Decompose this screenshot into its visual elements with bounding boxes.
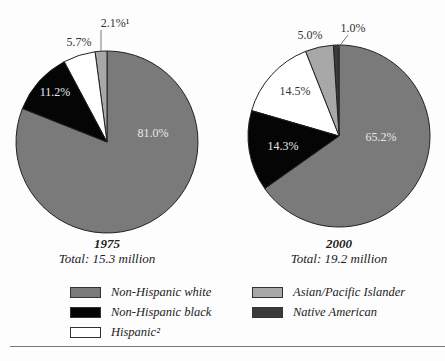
slice-label: 1.0% <box>341 21 366 35</box>
caption-2000: 2000 Total: 19.2 million <box>239 236 439 267</box>
caption-1975: 1975 Total: 15.3 million <box>7 236 207 267</box>
legend-label: Hispanic² <box>111 325 160 340</box>
slice-label: 81.0% <box>138 126 169 140</box>
legend-label: Asian/Pacific Islander <box>293 285 405 300</box>
slice-label: 65.2% <box>366 130 397 144</box>
pie-charts: 81.0%11.2%5.7%2.1%¹65.2%14.3%14.5%5.0%1.… <box>0 0 445 240</box>
legend-item-native: Native American <box>252 305 377 320</box>
total-label: Total: 15.3 million <box>7 251 207 267</box>
year-label: 2000 <box>239 236 439 251</box>
legend-swatch <box>70 287 101 298</box>
legend-item-white: Non-Hispanic white <box>70 285 211 300</box>
legend-label: Native American <box>293 305 377 320</box>
legend-swatch <box>252 287 283 298</box>
legend-item-asian: Asian/Pacific Islander <box>252 285 405 300</box>
legend-item-hispanic: Hispanic² <box>70 325 160 340</box>
slice-label: 14.5% <box>280 84 311 98</box>
slice-label: 5.7% <box>67 35 92 49</box>
legend-item-black: Non-Hispanic black <box>70 305 211 320</box>
total-label: Total: 19.2 million <box>239 251 439 267</box>
legend-label: Non-Hispanic white <box>111 285 211 300</box>
legend-swatch <box>70 307 101 318</box>
divider <box>10 346 445 347</box>
slice-label: 14.3% <box>268 139 299 153</box>
year-label: 1975 <box>7 236 207 251</box>
slice-label: 2.1%¹ <box>101 16 130 30</box>
slice-label: 11.2% <box>40 85 71 99</box>
legend-swatch <box>70 327 101 338</box>
slice-label: 5.0% <box>298 28 323 42</box>
legend-swatch <box>252 307 283 318</box>
legend-label: Non-Hispanic black <box>111 305 211 320</box>
